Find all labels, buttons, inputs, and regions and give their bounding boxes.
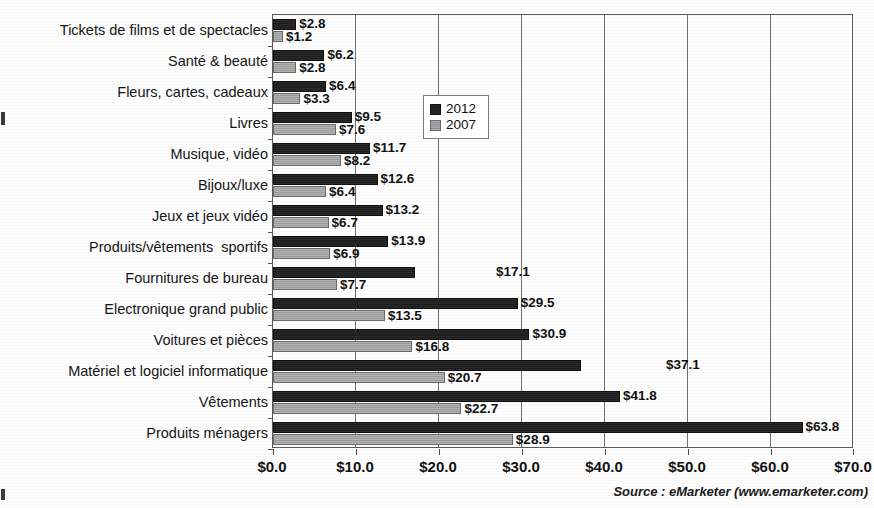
x-gridline bbox=[604, 15, 605, 447]
category-label: Produits ménagers bbox=[0, 425, 268, 441]
bar-2007 bbox=[273, 31, 283, 42]
x-axis-tick bbox=[522, 449, 523, 455]
bar-value-label-2012: $29.5 bbox=[521, 296, 555, 310]
bar-2007 bbox=[273, 341, 412, 352]
bar-2007 bbox=[273, 124, 336, 135]
bar-value-label-2007: $16.8 bbox=[415, 340, 449, 354]
bar-value-label-2012: $13.2 bbox=[386, 203, 420, 217]
x-gridline bbox=[521, 15, 522, 447]
y-axis-tick bbox=[268, 294, 273, 295]
bar-value-label-2007: $8.2 bbox=[344, 154, 370, 168]
bar-2012 bbox=[273, 205, 383, 216]
bar-value-label-2007: $2.8 bbox=[299, 61, 325, 75]
legend-swatch-2012-icon bbox=[430, 104, 441, 115]
bar-value-label-2007: $6.9 bbox=[333, 247, 359, 261]
legend-item-2012: 2012 bbox=[430, 101, 482, 117]
bar-value-label-2012: $30.9 bbox=[532, 327, 566, 341]
legend-swatch-2007-icon bbox=[430, 120, 441, 131]
bar-2007 bbox=[273, 93, 300, 104]
x-axis-tick-label: $30.0 bbox=[486, 458, 556, 476]
bar-2007 bbox=[273, 62, 296, 73]
bar-value-label-2012: $41.8 bbox=[623, 389, 657, 403]
x-axis-tick bbox=[853, 449, 854, 455]
y-axis-tick bbox=[268, 139, 273, 140]
x-gridline bbox=[770, 15, 771, 447]
x-axis-tick-label: $50.0 bbox=[652, 458, 722, 476]
bar-value-label-2007: $22.7 bbox=[464, 402, 498, 416]
y-axis-tick bbox=[268, 77, 273, 78]
bar-value-label-2007: $13.5 bbox=[388, 309, 422, 323]
y-axis-tick bbox=[268, 201, 273, 202]
x-axis-tick bbox=[605, 449, 606, 455]
bar-value-label-2007: $20.7 bbox=[448, 371, 482, 385]
bar-value-label-2012: $12.6 bbox=[381, 172, 415, 186]
x-axis-tick bbox=[439, 449, 440, 455]
plot-area: $2.8$1.2$6.2$2.8$6.4$3.3$9.5$7.6$11.7$8.… bbox=[272, 14, 853, 448]
bar-2007 bbox=[273, 434, 513, 445]
bar-2007 bbox=[273, 217, 329, 228]
x-axis-tick-label: $40.0 bbox=[569, 458, 639, 476]
chart-legend: 2012 2007 bbox=[423, 95, 489, 139]
category-label: Tickets de films et de spectacles bbox=[0, 22, 268, 38]
x-axis-tick-label: $20.0 bbox=[403, 458, 473, 476]
category-label: Fleurs, cartes, cadeaux bbox=[0, 84, 268, 100]
x-axis-tick bbox=[771, 449, 772, 455]
category-label: Produits/vêtements sportifs bbox=[0, 239, 268, 255]
y-axis-tick bbox=[268, 418, 273, 419]
legend-label-2007: 2007 bbox=[446, 118, 476, 132]
y-axis-tick bbox=[268, 387, 273, 388]
bar-2007 bbox=[273, 279, 337, 290]
scan-artifact-mark bbox=[1, 489, 5, 500]
y-axis-tick bbox=[268, 263, 273, 264]
x-axis-tick-label: $60.0 bbox=[735, 458, 805, 476]
bar-2012 bbox=[273, 174, 378, 185]
category-label: Jeux et jeux vidéo bbox=[0, 208, 268, 224]
x-axis-tick bbox=[273, 449, 274, 455]
category-label: Matériel et logiciel informatique bbox=[0, 363, 268, 379]
category-label: Livres bbox=[0, 115, 268, 131]
bar-value-label-2007: $1.2 bbox=[286, 30, 312, 44]
x-axis-tick-label: $0.0 bbox=[237, 458, 307, 476]
x-axis-tick bbox=[688, 449, 689, 455]
y-axis-tick bbox=[268, 449, 273, 450]
bar-value-label-2012: $13.9 bbox=[391, 234, 425, 248]
bar-2012 bbox=[273, 391, 620, 402]
bar-value-label-2012: $6.2 bbox=[327, 48, 353, 62]
bar-2007 bbox=[273, 310, 385, 321]
bar-2007 bbox=[273, 372, 445, 383]
bar-2012 bbox=[273, 329, 529, 340]
y-axis-tick bbox=[268, 108, 273, 109]
y-axis-tick bbox=[268, 325, 273, 326]
source-note: Source : eMarketer (www.emarketer.com) bbox=[613, 484, 868, 499]
bar-value-label-2007: $28.9 bbox=[516, 433, 550, 447]
y-axis-tick bbox=[268, 356, 273, 357]
y-axis-tick bbox=[268, 170, 273, 171]
bar-2007 bbox=[273, 248, 330, 259]
category-label: Electronique grand public bbox=[0, 301, 268, 317]
x-axis-tick-labels: $0.0$10.0$20.0$30.0$40.0$50.0$60.0$70.0 bbox=[0, 458, 874, 480]
legend-item-2007: 2007 bbox=[430, 117, 482, 133]
y-axis-category-labels: Tickets de films et de spectaclesSanté &… bbox=[0, 14, 272, 448]
x-axis-tick bbox=[356, 449, 357, 455]
bar-value-label-2012: $17.1 bbox=[496, 265, 530, 279]
category-label: Bijoux/luxe bbox=[0, 177, 268, 193]
x-axis-tick-label: $10.0 bbox=[320, 458, 390, 476]
x-gridline bbox=[687, 15, 688, 447]
y-axis-tick bbox=[268, 232, 273, 233]
bar-value-label-2012: $6.4 bbox=[329, 79, 355, 93]
category-label: Voitures et pièces bbox=[0, 332, 268, 348]
bar-value-label-2007: $7.6 bbox=[339, 123, 365, 137]
category-label: Musique, vidéo bbox=[0, 146, 268, 162]
bar-value-label-2012: $63.8 bbox=[806, 420, 840, 434]
bar-2007 bbox=[273, 403, 461, 414]
bar-value-label-2007: $3.3 bbox=[303, 92, 329, 106]
bar-value-label-2012: $11.7 bbox=[373, 141, 406, 155]
chart-container: Tickets de films et de spectaclesSanté &… bbox=[0, 0, 874, 508]
category-label: Vêtements bbox=[0, 394, 268, 410]
bar-value-label-2012: $37.1 bbox=[666, 358, 700, 372]
legend-label-2012: 2012 bbox=[446, 102, 476, 116]
bar-2007 bbox=[273, 155, 341, 166]
bar-2007 bbox=[273, 186, 326, 197]
bar-value-label-2007: $7.7 bbox=[340, 278, 366, 292]
y-axis-tick bbox=[268, 46, 273, 47]
